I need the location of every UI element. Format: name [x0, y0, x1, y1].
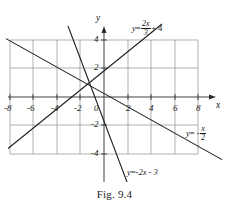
- x-axis-arrow: [209, 94, 216, 99]
- y-axis-label: y: [96, 14, 100, 24]
- eq2-equals: = -: [190, 128, 200, 138]
- xtick-label-neg4: -4: [51, 104, 59, 113]
- line-y-2x-over-3-plus-4: [8, 24, 162, 149]
- eq1-denominator: 3: [141, 28, 151, 37]
- eq2-fraction: x2: [200, 125, 206, 142]
- xtick-label-6: 6: [173, 104, 178, 113]
- figure-caption: Fig. 9.4: [0, 188, 229, 200]
- equation-label-line3: y=-2x - 3: [127, 168, 158, 177]
- eq3-expression: -2x - 3: [136, 167, 158, 177]
- xtick-label-neg6: -6: [27, 104, 35, 113]
- xtick-label-neg2: -2: [74, 104, 82, 113]
- ytick-label-neg4: -4: [91, 149, 99, 158]
- eq1-fraction: 2x3: [141, 20, 151, 37]
- eq2-denominator: 2: [200, 133, 206, 142]
- eq1-numerator: 2x: [141, 20, 151, 28]
- eq1-tail: + 4: [151, 23, 162, 33]
- y-axis-arrow: [102, 26, 107, 33]
- eq1-equals: =: [136, 23, 141, 33]
- eq2-numerator: x: [200, 125, 206, 133]
- ytick-label-4: 4: [94, 35, 99, 44]
- ytick-label-neg2: -2: [91, 120, 99, 129]
- figure-container: -8 -6 -4 -2 0 2 4 6 8 4 2 -2 -4 y x y=2x…: [0, 0, 229, 208]
- xtick-label-8: 8: [196, 104, 201, 113]
- ytick-label-2: 2: [94, 63, 99, 72]
- xtick-label-4: 4: [149, 104, 154, 113]
- xtick-label-zero: 0: [94, 104, 99, 113]
- xtick-label-neg8: -8: [4, 104, 12, 113]
- x-axis-label: x: [216, 101, 220, 111]
- equation-label-line1: y=2x3+ 4: [132, 20, 162, 37]
- y-axis: [102, 26, 107, 182]
- x-axis: [8, 94, 216, 99]
- equation-label-line2: y= -x2: [186, 125, 207, 142]
- xtick-label-2: 2: [126, 104, 131, 113]
